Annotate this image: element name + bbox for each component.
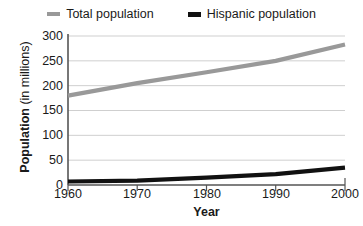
series-line-hispanic-population (68, 168, 345, 182)
x-tick-marks (68, 185, 345, 191)
series-line-total-population (68, 44, 345, 95)
population-line-chart: Total population Hispanic population Pop… (0, 0, 363, 226)
plot-area (0, 0, 363, 226)
